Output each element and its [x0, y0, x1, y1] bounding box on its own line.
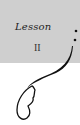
- calligraphic-flourish-icon: [0, 0, 80, 125]
